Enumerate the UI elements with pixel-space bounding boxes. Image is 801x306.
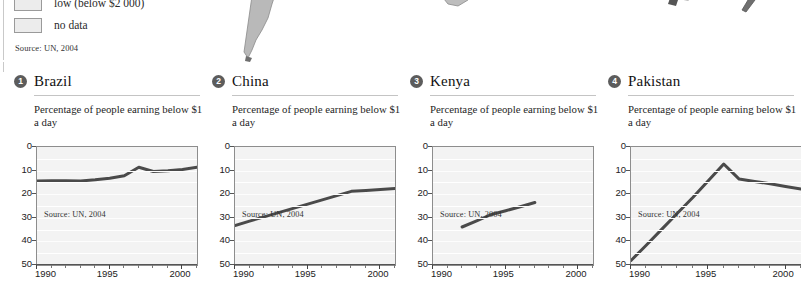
panel-subtitle: Percentage of people earning below $1 a … [430, 103, 602, 129]
gridline [433, 253, 593, 254]
y-axis-tick [230, 240, 234, 241]
panel-country-title: Brazil [34, 73, 72, 90]
gridline [433, 230, 593, 231]
y-axis-label: 40 [410, 234, 428, 245]
y-axis-tick [32, 146, 36, 147]
x-axis-tick [519, 265, 520, 268]
gridline [37, 194, 197, 195]
x-axis-tick [138, 265, 139, 268]
chart-china: 01020304050199019952000 [212, 144, 398, 284]
x-axis-tick [278, 265, 279, 268]
y-axis-tick [230, 146, 234, 147]
gridline [631, 241, 801, 242]
x-axis-tick [661, 265, 662, 268]
x-axis-tick [738, 265, 739, 268]
y-axis-label: 40 [608, 234, 626, 245]
x-axis-tick [123, 265, 124, 268]
y-axis-tick [428, 146, 432, 147]
y-axis-label: 40 [14, 234, 32, 245]
x-axis-label: 1990 [35, 268, 56, 279]
y-axis-label: 20 [608, 187, 626, 198]
y-axis-tick [32, 193, 36, 194]
x-axis-tick [350, 265, 351, 268]
x-axis-label: 2000 [565, 268, 586, 279]
australia-fragment [608, 0, 738, 38]
x-axis-tick [196, 265, 197, 268]
x-axis-label: 1990 [431, 268, 452, 279]
gridline [37, 206, 197, 207]
y-axis-tick [626, 240, 630, 241]
y-axis-label: 0 [14, 140, 32, 151]
x-axis-tick [754, 265, 755, 268]
x-axis-label: 1990 [233, 268, 254, 279]
x-axis-label: 1995 [695, 268, 716, 279]
gridline [631, 206, 801, 207]
y-axis-label: 0 [212, 140, 230, 151]
gridline [235, 182, 395, 183]
x-axis-tick [263, 265, 264, 268]
gridline [631, 159, 801, 160]
x-axis-label: 2000 [773, 268, 794, 279]
gridline [433, 194, 593, 195]
chart-kenya: 01020304050199019952000 [410, 144, 596, 284]
gridline [37, 182, 197, 183]
panel-country-title: China [232, 73, 269, 90]
panel-number-badge: 1 [14, 75, 27, 88]
x-axis-tick [676, 265, 677, 268]
x-axis-tick [321, 265, 322, 268]
panel-kenya: 3 Kenya Percentage of people earning bel… [410, 72, 596, 306]
panel-rule [232, 95, 398, 96]
x-axis-tick [394, 265, 395, 268]
y-axis-tick [626, 170, 630, 171]
x-axis-tick [490, 265, 491, 268]
x-axis-label: 1995 [493, 268, 514, 279]
plot-area [234, 146, 396, 266]
panel-brazil: 1 Brazil Percentage of people earning be… [14, 72, 200, 306]
y-axis-tick [428, 193, 432, 194]
y-axis-label: 40 [212, 234, 230, 245]
x-axis-tick [65, 265, 66, 268]
y-axis-tick [428, 170, 432, 171]
x-axis-label: 2000 [169, 268, 190, 279]
y-axis-tick [428, 240, 432, 241]
x-axis-tick [152, 265, 153, 268]
gridline [631, 194, 801, 195]
gridline [235, 159, 395, 160]
y-axis-label: 20 [212, 187, 230, 198]
y-axis-tick [32, 217, 36, 218]
y-axis-tick [626, 146, 630, 147]
panel-subtitle: Percentage of people earning below $1 a … [232, 103, 404, 129]
plot-area [432, 146, 594, 266]
legend-item-no-data: no data [14, 14, 189, 36]
x-axis-tick [94, 265, 95, 268]
y-axis-tick [626, 217, 630, 218]
y-axis-tick [626, 193, 630, 194]
panel-header: 3 Kenya [410, 72, 596, 91]
legend-label-no-data: no data [54, 19, 88, 31]
country-panels: 1 Brazil Percentage of people earning be… [0, 72, 778, 306]
x-axis-line [630, 264, 801, 265]
x-axis-tick [167, 265, 168, 268]
gridline [433, 206, 593, 207]
y-axis-label: 50 [212, 258, 230, 269]
gridline [433, 182, 593, 183]
x-axis-label: 1995 [295, 268, 316, 279]
legend-source: Source: UN, 2004 [15, 43, 189, 53]
gridline [37, 159, 197, 160]
y-axis-label: 30 [14, 211, 32, 222]
y-axis-label: 50 [608, 258, 626, 269]
gridline [631, 253, 801, 254]
y-axis-label: 0 [410, 140, 428, 151]
gridline [235, 241, 395, 242]
y-axis-label: 10 [212, 164, 230, 175]
panel-china: 2 China Percentage of people earning bel… [212, 72, 398, 306]
legend-swatch-low [14, 0, 42, 11]
y-axis-label: 50 [14, 258, 32, 269]
y-axis-tick [230, 193, 234, 194]
plot-area [36, 146, 198, 266]
x-axis-tick [769, 265, 770, 268]
y-axis-tick [32, 240, 36, 241]
y-axis-label: 20 [410, 187, 428, 198]
x-axis-tick [461, 265, 462, 268]
